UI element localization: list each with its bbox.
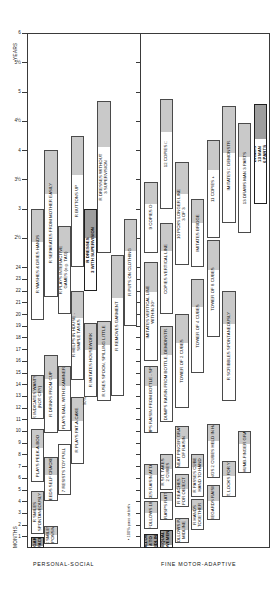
tick-year-5½ <box>22 62 28 63</box>
tick-month-6-sec <box>136 478 141 479</box>
bar-label: R PUTS ON CLOTHING <box>128 248 133 296</box>
personal-social-bar: R SMILESSPONTANEOUSLY <box>31 491 44 534</box>
bar-label: R REACHESFOR OBJECT <box>177 477 187 505</box>
tick-month-8 <box>22 454 28 455</box>
tick-month-19 <box>22 326 28 327</box>
tick-month-5-sec <box>136 490 141 491</box>
bar-fill <box>98 102 109 147</box>
personal-social-bar: R PLAYS PAT-A-CAKE <box>71 397 84 464</box>
bar-label: R WASHES & DRIES HANDS <box>35 235 40 293</box>
personal-social-bar: R IMITATES HOUSEWORK <box>84 323 97 397</box>
tick-month-20 <box>22 314 28 315</box>
tick-month-1-sec <box>136 536 141 537</box>
personal-social-bar: R PLAYS INTERACTIVEGAMES (e.g. TAG) <box>58 226 71 314</box>
tick-month-21 <box>22 302 28 303</box>
bar-label: 4 FOLLOWS PASTMIDLINE <box>177 518 187 544</box>
tick-year-4-sec <box>136 150 141 151</box>
personal-social-bar: R INDICATES WANTS(NOT CRY) <box>31 375 44 419</box>
fine-motor-bar: 12 COPIES □ <box>160 99 174 209</box>
fine-motor-bar: 11 COPIES + <box>207 140 221 238</box>
tick-month-10 <box>22 431 28 432</box>
bar-label: R IMITATES HOUSEWORK <box>88 333 93 387</box>
bar-label: R HANDSTOGETHER <box>193 503 203 527</box>
fine-motor-bar: TOWER OF 2 CUBES <box>175 314 189 408</box>
bar-fill <box>145 183 157 204</box>
personal-social-bar: PLAYS BALL WITH EXAMINER <box>58 366 71 431</box>
bar-label: R HELPS IN HOUSE -SIMPLE TASKS <box>72 313 82 357</box>
bar-label: R SMILESRESPONSIVELY <box>46 526 56 545</box>
bar-label: R FEEDS SELF CRACKERS <box>48 457 53 501</box>
fine-motor-bar: FOLLOWS4 TOMIDLINE <box>144 534 158 548</box>
tick-month-4-sec <box>136 501 141 502</box>
section-label-personal-social: PERSONAL-SOCIAL <box>33 561 94 567</box>
fine-motor-bar: R REACHESFOR OBJECT <box>175 474 189 507</box>
bar-label: REGARDSFACE <box>33 537 43 548</box>
tick-year-3½-sec <box>136 179 141 180</box>
tick-month-13-sec <box>136 396 141 397</box>
fine-motor-bar: 4 FOLLOWS PASTMIDLINE <box>175 518 189 544</box>
tick-label: 6 <box>0 30 21 35</box>
tick-month-7 <box>22 466 28 467</box>
personal-social-bar: R DRESSES3 WITH SUPERVISION <box>84 209 97 291</box>
denver-developmental-chart: 1234567891011121314151617181920212223242… <box>0 0 279 597</box>
bar-label: R PASSES CUBEHAND TO HAND <box>193 458 203 493</box>
bar-label: TOWER OF 2 CUBES <box>180 339 185 382</box>
bar-label: TOWER OF 4 CUBES <box>195 304 200 347</box>
bar-fill <box>208 241 220 270</box>
tick-label: 6 <box>0 475 21 480</box>
bar-label: IMITATES □ DEMONSTR. <box>227 139 232 190</box>
bar-label: R BUTTONS UP <box>75 185 80 218</box>
bar-label: PLAYS BALL WITH EXAMINER <box>62 367 67 429</box>
fine-motor-bar: R NEAT PINCER GRASPOF RAISIN <box>175 426 189 468</box>
tick-year-4½-sec <box>136 121 141 122</box>
personal-social-bar: 7 RESISTS TOY PULL <box>58 444 71 495</box>
tick-label: 5½ <box>0 60 21 65</box>
tick-label: 4 <box>0 148 21 153</box>
axis-label-years: YEARS <box>13 42 18 60</box>
axis-label-months: MONTHS <box>13 526 18 548</box>
personal-social-bar: R DRESSES WITHOUT3 SUPERVISION <box>97 101 110 252</box>
bar-label: 10 PICKS LONGER LINE3 OF 3 <box>177 189 187 239</box>
personal-social-bar: R BUTTONS UP <box>71 136 84 268</box>
tick-month-17-sec <box>136 349 141 350</box>
tick-month-17 <box>22 349 28 350</box>
tick-month-3-sec <box>136 513 141 514</box>
tick-year-4½ <box>22 121 28 122</box>
tick-month-12 <box>22 408 28 409</box>
tick-year-5-sec <box>136 92 141 93</box>
tick-label: 9 <box>0 440 21 445</box>
bar-label: FOLLOWS4 TOMIDLINE <box>144 534 158 548</box>
fine-motor-bar: DUMPS RAISIN FROM BOTTLE - SPONT. <box>144 366 158 434</box>
fine-motor-bar: 10 PICKS LONGER LINE3 OF 3 <box>175 162 189 265</box>
bar-label: RAKES RAISIN ATTAINS <box>148 464 153 499</box>
personal-social-bar: R DRINKS FROM CUP <box>44 355 57 433</box>
bar-label: 13 DRAWS MAN 3 PARTS <box>242 152 247 204</box>
personal-social-bar: R USES SPOON, SPILLING LITTLE <box>97 321 110 401</box>
bar-label: 11 COPIES + <box>211 176 216 202</box>
bar-label: R PLAYS INTERACTIVEGAMES (e.g. TAG) <box>59 246 69 294</box>
tick-year-4 <box>22 150 28 151</box>
tick-label: 24 <box>0 265 21 270</box>
tick-month-2 <box>22 525 28 526</box>
fine-motor-bar: R PASSES CUBEHAND TO HAND <box>191 454 205 496</box>
tick-label: 16 <box>0 358 21 363</box>
tick-label: 15 <box>0 370 21 375</box>
bar-label: COPIES VERTICAL LINE <box>164 244 169 294</box>
tick-month-12-sec <box>136 408 141 409</box>
tick-month-8-sec <box>136 454 141 455</box>
tick-month-4 <box>22 501 28 502</box>
tick-month-16-sec <box>136 361 141 362</box>
bar-label: R DRESSES3 WITH SUPERVISION <box>86 227 96 273</box>
tick-year-6-sec <box>136 33 141 34</box>
bar-label: R SEPARATES FROM MOTHER EASILY <box>48 183 53 264</box>
personal-social-bar: R WASHES & DRIES HANDS <box>31 209 44 320</box>
tick-year-6 <box>22 33 28 34</box>
fine-motor-bar: R SIT, LOOKS FOR YARN <box>222 461 236 496</box>
tick-year-2½ <box>22 238 28 239</box>
bar-label: R REMOVES GARMENT <box>115 301 120 350</box>
tick-label: 11 <box>0 417 21 422</box>
personal-social-bar: R PUTS ON CLOTHING <box>124 219 137 326</box>
tick-month-10-sec <box>136 431 141 432</box>
bar-fill <box>161 100 173 132</box>
note-pass-at-birth: ▪ 100% pass at birth <box>126 504 131 540</box>
